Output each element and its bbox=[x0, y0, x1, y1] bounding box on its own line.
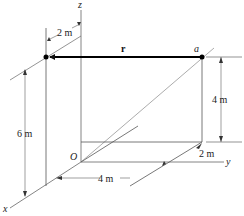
dim-4m-horizontal-label: 4 m bbox=[98, 173, 114, 184]
y-axis-label: y bbox=[225, 156, 231, 167]
vector-r-label: r bbox=[121, 43, 126, 54]
diagram-canvas: z y x O a r 2 m 6 m 4 m 4 m 2 m bbox=[0, 0, 244, 216]
x-axis bbox=[10, 162, 81, 208]
dim-top-2m-label: 2 m bbox=[57, 27, 73, 38]
dim-4m-right-label: 4 m bbox=[212, 94, 228, 105]
diagonal-line bbox=[81, 48, 214, 162]
z-axis-label: z bbox=[77, 0, 82, 10]
point-left bbox=[44, 55, 49, 60]
projection-line bbox=[81, 126, 138, 162]
point-a bbox=[200, 55, 205, 60]
x-axis-label: x bbox=[2, 203, 8, 214]
dim-6m-label: 6 m bbox=[17, 128, 33, 139]
point-a-label: a bbox=[194, 43, 199, 54]
origin-label: O bbox=[70, 151, 77, 162]
dim-2m-right-label: 2 m bbox=[199, 148, 215, 159]
